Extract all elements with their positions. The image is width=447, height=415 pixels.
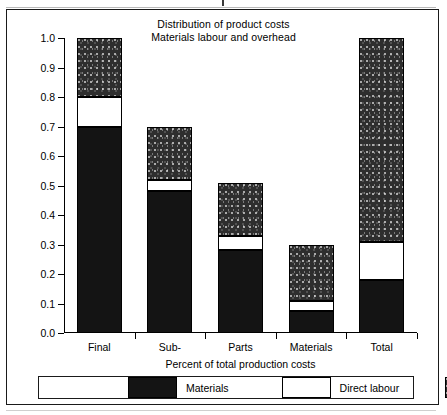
bar-segment-overhead[interactable] — [147, 127, 192, 180]
bar-segment-overhead[interactable] — [218, 183, 263, 236]
x-axis-tick-mark — [205, 333, 206, 339]
chart-title-line1: Distribution of product costs — [7, 18, 440, 31]
plot-area: 1.00.90.80.70.60.50.40.30.20.10.0 FinalS… — [64, 38, 417, 333]
page-bottom-rule — [6, 410, 436, 411]
y-axis-tick-label: 0.6 — [40, 150, 55, 162]
y-axis-tick-label: 1.0 — [40, 32, 55, 44]
bar-segment-overhead[interactable] — [289, 245, 334, 301]
bar-segment-direct-labour[interactable] — [218, 236, 263, 251]
legend-items: MaterialsDirect labourOverhead — [33, 373, 421, 402]
y-axis-tick-mark — [58, 215, 64, 216]
y-axis-tick-label: 0.1 — [40, 298, 55, 310]
bar-segment-materials[interactable] — [359, 280, 404, 333]
y-axis-tick-label: 0.9 — [40, 62, 55, 74]
y-axis-tick-mark — [58, 245, 64, 246]
clipped-glyph-mark — [222, 0, 224, 6]
legend-label: Direct labour — [340, 382, 400, 394]
bar-final[interactable] — [77, 38, 122, 333]
page-top-artifact — [0, 0, 447, 9]
x-axis-tick-mark — [417, 333, 418, 339]
figure-frame: Distribution of product costs Materials … — [6, 9, 439, 405]
legend-label: Materials — [186, 382, 229, 394]
legend-item-direct-labour[interactable]: Direct labour — [282, 377, 400, 398]
bar-segment-overhead[interactable] — [359, 38, 404, 242]
x-axis-title: Percent of total production costs — [64, 358, 417, 370]
legend-swatch-labour — [282, 377, 331, 398]
bar-segment-direct-labour[interactable] — [77, 97, 122, 127]
y-axis-tick-mark — [58, 186, 64, 187]
x-axis-tick-mark — [135, 333, 136, 339]
y-axis-tick-label: 0.4 — [40, 209, 55, 221]
y-axis-tick-mark — [58, 274, 64, 275]
page-top-rule — [6, 7, 436, 8]
y-axis-tick-mark — [58, 38, 64, 39]
bar-segment-direct-labour[interactable] — [289, 301, 334, 311]
bar-segment-direct-labour[interactable] — [147, 180, 192, 192]
x-axis-label-sub: Sub- — [159, 341, 181, 353]
bar-parts[interactable] — [218, 183, 263, 333]
legend-swatch-materials — [128, 377, 177, 398]
y-axis-tick-mark — [58, 97, 64, 98]
x-axis-tick-mark — [346, 333, 347, 339]
y-axis-tick-label: 0.2 — [40, 268, 55, 280]
x-axis-tick-mark — [276, 333, 277, 339]
bar-sub[interactable] — [147, 127, 192, 334]
legend: MaterialsDirect labourOverhead — [38, 376, 414, 399]
y-axis-tick-label: 0.5 — [40, 180, 55, 192]
y-axis-title: Percent of total production costs — [19, 0, 33, 38]
y-axis-tick-mark — [58, 304, 64, 305]
y-axis-tick-label: 0.3 — [40, 239, 55, 251]
y-axis-tick-label: 0.8 — [40, 91, 55, 103]
y-axis-tick-label: 0.7 — [40, 121, 55, 133]
bar-segment-materials[interactable] — [218, 250, 263, 333]
x-axis-label-parts: Parts — [228, 341, 253, 353]
bar-total[interactable] — [359, 38, 404, 333]
y-axis-tick-mark — [58, 156, 64, 157]
bar-segment-materials[interactable] — [147, 191, 192, 333]
bar-segment-overhead[interactable] — [77, 38, 122, 97]
x-axis-label-total: Total — [371, 341, 393, 353]
y-axis-tick-mark — [58, 333, 64, 334]
x-axis-label-materials: Materials — [290, 341, 333, 353]
bar-segment-materials[interactable] — [289, 311, 334, 333]
bar-segment-direct-labour[interactable] — [359, 242, 404, 280]
y-axis-tick-mark — [58, 68, 64, 69]
bar-materials[interactable] — [289, 245, 334, 334]
bar-segment-materials[interactable] — [77, 127, 122, 334]
y-axis-tick-mark — [58, 127, 64, 128]
legend-item-materials[interactable]: Materials — [128, 377, 229, 398]
x-axis-label-final: Final — [88, 341, 111, 353]
y-axis-tick-label: 0.0 — [40, 327, 55, 339]
